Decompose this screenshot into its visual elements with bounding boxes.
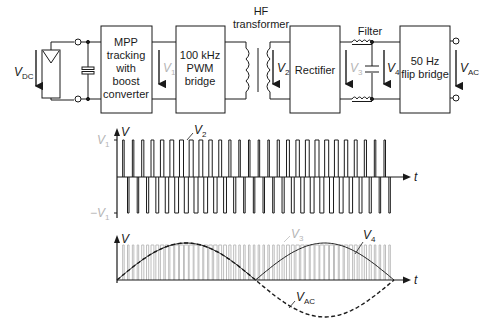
pwm-label-2: PWM [187,62,214,74]
v1-label: V1 [163,61,176,77]
inverter-diagram: MPP tracking with boost converter 100 kH… [0,0,490,334]
transformer-label-2: transformer [233,18,290,30]
y-axis-label: V [121,232,130,246]
svg-text:tracking: tracking [107,49,146,61]
capacitor-icon [82,42,94,99]
pwm-label-1: 100 kHz [180,49,220,61]
pwm-label-3: bridge [185,75,216,87]
inductor-bottom-icon [352,97,372,102]
svg-text:converter: converter [103,88,149,100]
ytick-v1: V1 [97,133,110,149]
y-axis-label: V [121,125,130,139]
v4-label: V4 [387,61,400,77]
t-axis-label: t [414,273,418,287]
v3-trace [123,245,391,280]
svg-text:with: with [115,62,136,74]
inductor-top-icon [352,40,372,45]
ytick-neg-v1: −V1 [90,206,110,222]
v2-label: V2 [277,61,290,77]
svg-text:boost: boost [113,75,140,87]
y-axis-arrow-icon [114,235,120,243]
rectifier-label: Rectifier [295,64,336,76]
pv-panel-icon [42,42,74,100]
t-axis-label: t [414,170,418,184]
v3-label: V3 [350,61,363,77]
t-axis-arrow-icon [403,174,411,181]
ac-terminal-top-icon [453,38,459,44]
waveform-v2-chart: V t V1 −V1 V2 [90,123,418,222]
flip-label-2: flip bridge [401,68,449,80]
flip-label-1: 50 Hz [411,55,440,67]
vdc-label: VDC [14,65,34,81]
block-labels: MPP tracking with boost converter 100 kH… [103,5,449,100]
v2-series-label: V2 [194,123,207,139]
v4-series-label: V4 [363,228,376,244]
filter-capacitor-icon [365,42,379,99]
vac-series-label: VAC [296,290,315,306]
ac-terminal-bottom-icon [453,95,459,101]
svg-text:MPP: MPP [114,36,138,48]
filter-label: Filter [358,25,383,37]
waveform-output-chart: V t V3 V4 VAC [114,227,418,317]
transformer-label-1: HF [254,5,269,17]
vac-label: VAC [460,61,479,77]
v3-series-label: V3 [291,227,304,243]
terminal-top-icon [75,39,81,45]
t-axis-arrow-icon [403,277,411,284]
y-axis-arrow-icon [114,128,120,136]
terminal-bottom-icon [75,96,81,102]
